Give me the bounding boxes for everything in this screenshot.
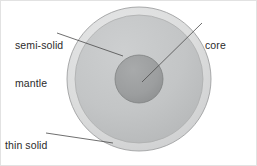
earth-layers-diagram: semi-solid mantle core thin solid crust	[0, 0, 257, 166]
label-core-line1: core	[205, 39, 226, 52]
layer-core	[115, 55, 163, 103]
label-mantle-line2: mantle	[15, 77, 63, 90]
label-mantle-line1: semi-solid	[15, 39, 63, 52]
label-core: core	[205, 14, 226, 77]
label-crust-line1: thin solid	[5, 139, 47, 152]
label-semi-solid-mantle: semi-solid mantle	[15, 14, 63, 114]
label-thin-solid-crust: thin solid crust	[5, 114, 47, 166]
